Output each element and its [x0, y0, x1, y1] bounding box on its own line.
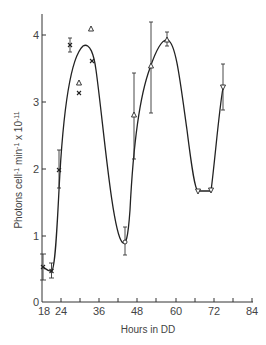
circle-marker: [123, 240, 127, 244]
x-tick-label: 84: [246, 305, 258, 317]
triangle-marker: [132, 112, 137, 117]
y-tick-label: 3: [33, 96, 39, 108]
fitted-curve: [43, 40, 223, 271]
error-bars: [40, 22, 225, 280]
chart: 0 1 2 3 4 18 24 36 48 60 72 84 Hours in …: [0, 0, 266, 345]
y-tick-label: 1: [33, 230, 39, 242]
y-tick-labels: 0 1 2 3 4: [33, 29, 39, 308]
inverted-triangle-marker: [221, 85, 226, 90]
x-marker: [90, 59, 94, 63]
inverted-triangle-marker: [196, 189, 201, 194]
x-tick-labels: 18 24 36 48 60 72 84: [38, 305, 258, 317]
x-tick-label: 48: [131, 305, 143, 317]
inverted-triangle-marker: [209, 188, 214, 193]
axes: [42, 14, 253, 302]
x-tick-label: 24: [55, 305, 67, 317]
triangle-marker: [165, 37, 170, 42]
x-marker: [77, 91, 81, 95]
triangle-marker: [77, 80, 82, 85]
x-tick-label: 60: [170, 305, 182, 317]
x-tick-label: 36: [93, 305, 105, 317]
y-axis-title: Photons cell-1 min-1 x 10-11: [13, 111, 25, 228]
y-tick-label: 4: [33, 29, 39, 41]
x-tick-label: 18: [38, 305, 50, 317]
x-axis-title: Hours in DD: [121, 324, 175, 335]
x-tick-label: 72: [208, 305, 220, 317]
triangle-marker: [149, 63, 154, 68]
x-markers: [41, 43, 94, 273]
triangle-marker: [89, 26, 94, 31]
y-tick-label: 2: [33, 163, 39, 175]
